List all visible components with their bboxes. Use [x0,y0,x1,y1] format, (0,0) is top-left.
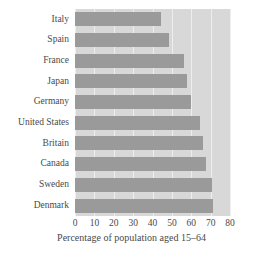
bar [75,12,161,26]
bar [75,95,191,109]
y-axis-category-labels: ItalySpainFranceJapanGermanyUnited State… [0,9,72,216]
x-axis-title: Percentage of population aged 15–64 [0,232,263,243]
category-label-row: France [0,50,72,71]
x-tick-label-10: 10 [90,216,100,230]
bar-chart: ItalySpainFranceJapanGermanyUnited State… [0,0,263,253]
category-label-row: Canada [0,154,72,175]
x-tick-label-30: 30 [128,216,138,230]
x-tick-label-60: 60 [187,216,197,230]
category-label-row: United States [0,112,72,133]
x-tick-label-70: 70 [206,216,216,230]
bar-row [75,9,230,30]
category-label: Sweden [39,180,69,190]
bar-row [75,71,230,92]
category-label-row: Japan [0,71,72,92]
bar [75,136,203,150]
bar-row [75,175,230,196]
category-label-row: Denmark [0,195,72,216]
bar-row [75,92,230,113]
bar-row [75,133,230,154]
x-tick-label-20: 20 [109,216,119,230]
gridline-80 [230,9,231,216]
x-tick-label-50: 50 [167,216,177,230]
category-label: Spain [47,35,69,45]
category-label: France [43,56,69,66]
x-tick-label-0: 0 [73,216,78,230]
bar [75,116,200,130]
bar-rows [75,9,230,216]
category-label: Denmark [34,201,69,211]
category-label-row: Germany [0,92,72,113]
x-axis-tick-labels: 01020304050607080 [75,216,230,230]
category-label-row: Britain [0,133,72,154]
bar-row [75,112,230,133]
bar-row [75,30,230,51]
bar-row [75,50,230,71]
bar [75,54,184,68]
bar-row [75,195,230,216]
category-label: United States [18,118,69,128]
plot-area [75,9,230,216]
bar [75,199,213,213]
bar-row [75,154,230,175]
category-label-row: Spain [0,30,72,51]
x-tick-label-40: 40 [148,216,158,230]
category-label-row: Italy [0,9,72,30]
bar [75,33,169,47]
category-label: Italy [52,15,69,25]
x-tick-label-80: 80 [225,216,235,230]
bar [75,178,212,192]
category-label: Britain [43,139,69,149]
category-label: Germany [34,97,69,107]
bar [75,157,206,171]
category-label-row: Sweden [0,175,72,196]
category-label: Japan [47,77,69,87]
bar [75,74,187,88]
category-label: Canada [41,159,70,169]
